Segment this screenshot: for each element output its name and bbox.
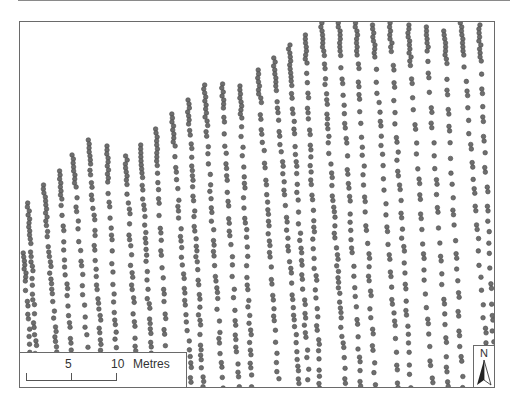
scale-bar: 5 10 Metres xyxy=(19,352,187,388)
scale-tick-0 xyxy=(26,373,27,381)
north-arrow-icon xyxy=(474,359,494,387)
scale-tick-5 xyxy=(71,373,72,381)
point-layer xyxy=(20,22,495,388)
scale-label-10: 10 xyxy=(111,357,124,371)
map-frame[interactable] xyxy=(19,21,495,388)
north-arrow: N xyxy=(473,345,495,388)
scale-unit: Metres xyxy=(133,357,170,371)
top-rule xyxy=(18,0,510,1)
scale-tick-10 xyxy=(116,373,117,381)
scale-label-5: 5 xyxy=(65,357,72,371)
north-label: N xyxy=(474,347,494,359)
